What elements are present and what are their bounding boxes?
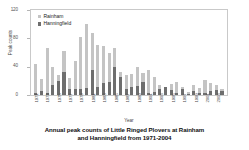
- legend-swatch-icon: [38, 22, 41, 26]
- bar-segment-rainham: [91, 33, 94, 69]
- bar-segment-rainham: [108, 53, 111, 82]
- bar-segment-rainham: [85, 24, 88, 88]
- bar-segment-rainham: [125, 75, 128, 88]
- bar-segment-hanningfield: [119, 77, 122, 95]
- bar-stack: [108, 53, 111, 95]
- bar-segment-rainham: [153, 77, 156, 92]
- legend-item-hanningfield: Hanningfield: [38, 21, 71, 26]
- bar-stack: [153, 77, 156, 95]
- x-axis-title: Year: [30, 118, 228, 123]
- bar-stack: [164, 87, 167, 96]
- legend-label: Rainham: [43, 14, 63, 19]
- legend-label: Hanningfield: [43, 21, 71, 26]
- bar-segment-rainham: [74, 61, 77, 89]
- bar-segment-hanningfield: [164, 87, 167, 96]
- bar-stack: [91, 33, 94, 95]
- bar-segment-rainham: [79, 37, 82, 89]
- bar-segment-rainham: [175, 82, 178, 93]
- bar-segment-hanningfield: [113, 67, 116, 95]
- bar-stack: [34, 64, 37, 95]
- bar-segment-rainham: [130, 74, 133, 87]
- bar-segment-rainham: [113, 48, 116, 67]
- bar-segment-rainham: [141, 73, 144, 82]
- bar-stack: [125, 75, 128, 95]
- y-axis-tick-label: 120: [0, 8, 18, 13]
- caption-line-1: Annual peak counts of Little Ringed Plov…: [4, 126, 245, 134]
- bar-stack: [119, 72, 122, 95]
- bar-stack: [62, 51, 65, 95]
- bar-segment-hanningfield: [96, 87, 99, 95]
- y-axis-title: Peak counts: [8, 17, 13, 69]
- bar-segment-rainham: [34, 64, 37, 93]
- bar-stack: [74, 61, 77, 95]
- bar-group: [219, 10, 225, 95]
- bar-stack: [141, 73, 144, 95]
- bar-stack: [51, 67, 54, 95]
- bar-segment-hanningfield: [130, 87, 133, 95]
- legend: Rainham Hanningfield: [38, 14, 71, 26]
- bar-segment-rainham: [209, 83, 212, 91]
- bar-stack: [79, 37, 82, 95]
- figure-caption: Annual peak counts of Little Ringed Plov…: [4, 126, 245, 143]
- bar-segment-rainham: [203, 80, 206, 93]
- x-axis-tick-labels: 1971197319751977197919811983198519871989…: [31, 97, 227, 119]
- bar-stack: [113, 48, 116, 95]
- bar-segment-hanningfield: [40, 91, 43, 95]
- y-axis-tick-label: 0: [0, 93, 18, 98]
- bar-segment-rainham: [136, 67, 139, 85]
- bar-segment-rainham: [46, 48, 49, 93]
- bar-segment-rainham: [102, 46, 105, 83]
- bar-segment-hanningfield: [108, 82, 111, 95]
- bar-stack: [136, 67, 139, 95]
- bar-segment-rainham: [96, 45, 99, 88]
- bar-segment-rainham: [68, 78, 71, 89]
- bar-stack: [40, 79, 43, 95]
- bar-segment-rainham: [51, 67, 54, 85]
- x-axis-tick: [220, 97, 226, 119]
- bar-segment-rainham: [62, 51, 65, 72]
- bar-segment-hanningfield: [51, 85, 54, 95]
- bar-stack: [102, 46, 105, 95]
- bar-stack: [46, 48, 49, 95]
- legend-item-rainham: Rainham: [38, 14, 71, 19]
- figure: 120 80 40 0 Peak counts Rainham Hanningf…: [0, 0, 249, 150]
- bar-stack: [130, 74, 133, 95]
- legend-swatch-icon: [38, 15, 41, 19]
- bar-stack: [57, 75, 60, 95]
- bar-segment-hanningfield: [85, 88, 88, 95]
- bar-stack: [85, 24, 88, 95]
- bar-stack: [147, 70, 150, 96]
- bar-stack: [96, 45, 99, 95]
- caption-line-2: and Hanningfield from 1971-2004: [4, 134, 245, 142]
- bar-segment-hanningfield: [62, 72, 65, 95]
- bar-segment-rainham: [40, 79, 43, 90]
- bar-segment-rainham: [147, 70, 150, 93]
- bar-segment-hanningfield: [74, 89, 77, 95]
- bar-segment-hanningfield: [91, 70, 94, 96]
